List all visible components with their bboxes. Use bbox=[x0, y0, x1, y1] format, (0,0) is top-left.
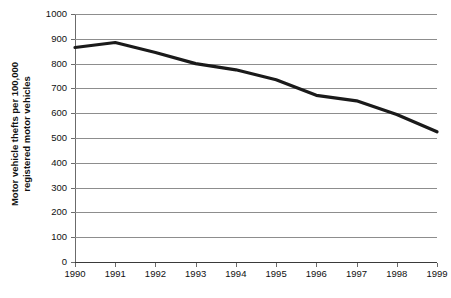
x-tick-mark-1994 bbox=[236, 263, 237, 267]
x-tick-label-1998: 1998 bbox=[377, 268, 417, 279]
x-tick-label-1995: 1995 bbox=[256, 268, 296, 279]
x-tick-label-1994: 1994 bbox=[216, 268, 256, 279]
gridline-100 bbox=[75, 237, 437, 238]
y-tick-label-700: 700 bbox=[7, 82, 67, 93]
y-tick-mark-1000 bbox=[71, 14, 75, 15]
y-tick-mark-500 bbox=[71, 138, 75, 139]
gridline-300 bbox=[75, 188, 437, 189]
y-tick-label-100: 100 bbox=[7, 231, 67, 242]
gridline-400 bbox=[75, 163, 437, 164]
gridline-800 bbox=[75, 64, 437, 65]
x-tick-label-1993: 1993 bbox=[176, 268, 216, 279]
gridline-500 bbox=[75, 138, 437, 139]
chart-container: Motor vehicle thefts per 100,000 registe… bbox=[0, 0, 451, 298]
y-tick-mark-800 bbox=[71, 64, 75, 65]
x-tick-label-1996: 1996 bbox=[296, 268, 336, 279]
x-tick-label-1997: 1997 bbox=[337, 268, 377, 279]
x-tick-mark-1998 bbox=[397, 263, 398, 267]
x-tick-mark-1993 bbox=[196, 263, 197, 267]
x-tick-label-1999: 1999 bbox=[417, 268, 451, 279]
x-tick-mark-1996 bbox=[316, 263, 317, 267]
y-tick-mark-300 bbox=[71, 188, 75, 189]
x-tick-mark-1991 bbox=[115, 263, 116, 267]
y-tick-mark-400 bbox=[71, 163, 75, 164]
x-tick-mark-1992 bbox=[155, 263, 156, 267]
plot-area bbox=[75, 14, 437, 262]
y-tick-label-0: 0 bbox=[7, 256, 67, 267]
x-tick-mark-1995 bbox=[276, 263, 277, 267]
y-tick-label-600: 600 bbox=[7, 107, 67, 118]
y-tick-label-500: 500 bbox=[7, 132, 67, 143]
y-tick-mark-900 bbox=[71, 39, 75, 40]
y-tick-label-300: 300 bbox=[7, 182, 67, 193]
x-tick-label-1990: 1990 bbox=[55, 268, 95, 279]
y-tick-label-1000: 1000 bbox=[7, 8, 67, 19]
x-tick-mark-1990 bbox=[75, 263, 76, 267]
y-tick-label-800: 800 bbox=[7, 58, 67, 69]
gridline-600 bbox=[75, 113, 437, 114]
y-tick-mark-700 bbox=[71, 88, 75, 89]
x-tick-mark-1999 bbox=[437, 263, 438, 267]
gridline-0 bbox=[75, 262, 437, 263]
y-tick-label-900: 900 bbox=[7, 33, 67, 44]
x-tick-label-1992: 1992 bbox=[135, 268, 175, 279]
y-tick-label-400: 400 bbox=[7, 157, 67, 168]
gridline-700 bbox=[75, 88, 437, 89]
y-tick-mark-600 bbox=[71, 113, 75, 114]
x-tick-mark-1997 bbox=[357, 263, 358, 267]
gridline-1000 bbox=[75, 14, 437, 15]
gridline-900 bbox=[75, 39, 437, 40]
x-tick-label-1991: 1991 bbox=[95, 268, 135, 279]
gridline-200 bbox=[75, 212, 437, 213]
y-tick-mark-200 bbox=[71, 212, 75, 213]
y-tick-label-200: 200 bbox=[7, 206, 67, 217]
y-tick-mark-100 bbox=[71, 237, 75, 238]
